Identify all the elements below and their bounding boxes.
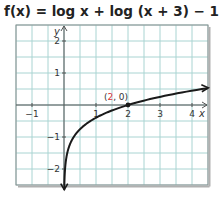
y-tick-label: −1: [47, 132, 60, 142]
y-tick-label: −2: [47, 164, 60, 174]
chart-plot: −1123421−1−2xy(2, 0): [0, 0, 223, 199]
x-axis-label: x: [198, 108, 205, 119]
x-tick-label: 3: [157, 109, 163, 119]
annotation-point: [126, 103, 131, 108]
x-tick-label: 2: [125, 109, 131, 119]
x-tick-label: 4: [189, 109, 195, 119]
y-tick-label: 1: [54, 68, 60, 78]
y-tick-label: 2: [54, 36, 60, 46]
x-tick-label: −1: [25, 109, 38, 119]
annotation-label: (2, 0): [104, 92, 128, 102]
y-axis-label: y: [53, 26, 61, 37]
